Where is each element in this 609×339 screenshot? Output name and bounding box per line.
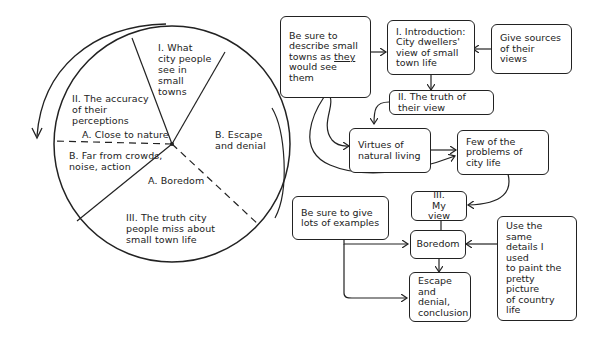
- pie-section-III-B: B. Escape and denial: [215, 129, 266, 151]
- node-describe-towns: Be sure to describe small towns as they …: [280, 16, 371, 98]
- pie-section-II-B: B. Far from crowds, noise, action: [69, 150, 162, 172]
- pie-section-III: III. The truth city people miss about sm…: [126, 212, 215, 245]
- node-give-sources: Give sources of their views: [491, 24, 572, 74]
- node-describe-emphasis: they: [334, 51, 355, 62]
- node-escape-denial-conclusion: Escape and denial, conclusion: [409, 272, 471, 322]
- node-use-same-details: Use the same details I used to paint the…: [497, 216, 577, 321]
- node-problems-city-life: Few of the problems of city life: [457, 130, 549, 175]
- pie-section-II-A: A. Close to nature: [82, 129, 169, 140]
- pie-section-I: I. What city people see in small towns: [158, 42, 212, 97]
- node-my-view: III. My view: [411, 191, 467, 221]
- node-introduction: I. Introduction: City dwellers' view of …: [387, 20, 475, 75]
- node-truth-of-view: II. The truth of their view: [389, 90, 494, 115]
- node-give-examples: Be sure to give lots of examples: [292, 196, 389, 240]
- pie-section-III-A: A. Boredom: [148, 175, 204, 186]
- node-virtues-natural-living: Virtues of natural living: [349, 128, 431, 173]
- node-describe-post: would see them: [289, 61, 337, 83]
- pie-section-II: II. The accuracy of their perceptions: [72, 93, 149, 126]
- node-boredom: Boredom: [410, 230, 466, 259]
